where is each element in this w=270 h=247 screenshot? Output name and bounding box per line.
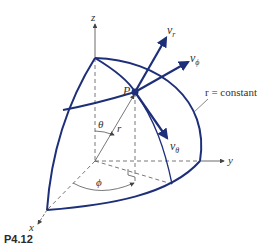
point-p-label: P (122, 84, 131, 98)
x-label: x (28, 221, 34, 233)
radius-label: r (117, 122, 122, 134)
v-r-label: vr (167, 23, 176, 39)
phi-arc (73, 183, 134, 191)
spherical-coordinates-diagram: z y x P r θ ϕ vr vϕ vθ r = constant P4.1… (0, 0, 270, 247)
v-phi-label: vϕ (190, 51, 199, 67)
right-angle-mark (128, 169, 135, 177)
z-label: z (90, 11, 96, 23)
sphere-surface (47, 58, 201, 210)
v-theta-label: vθ (170, 139, 179, 155)
velocity-vectors (135, 38, 188, 138)
x-axis (38, 210, 47, 224)
surface-label: r = constant (205, 86, 257, 98)
y-label: y (227, 154, 233, 166)
figure-caption: P4.12 (4, 233, 33, 245)
phi-label: ϕ (96, 176, 102, 188)
surface-leader (193, 99, 208, 113)
theta-label: θ (98, 118, 104, 130)
